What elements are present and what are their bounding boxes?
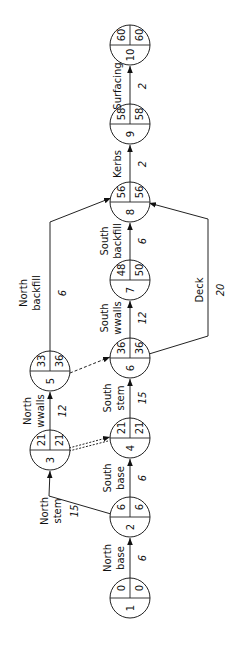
node-latest-time: 36 xyxy=(134,342,145,355)
node-latest-time: 0 xyxy=(134,585,145,591)
network-diagram: 0016622121321214333653636648507565685858… xyxy=(0,0,230,648)
node-earliest-time: 48 xyxy=(116,264,127,277)
label-south-stem-1: South xyxy=(102,383,113,412)
node-latest-time: 50 xyxy=(134,264,145,277)
node-event-number: 8 xyxy=(125,209,136,215)
duration-north-wwalls: 12 xyxy=(57,405,68,418)
node-earliest-time: 21 xyxy=(36,434,47,447)
label-deck: Deck xyxy=(194,277,205,302)
duration-north-backfill: 6 xyxy=(57,290,68,296)
node-event-number: 1 xyxy=(125,605,136,611)
node-3: 21213 xyxy=(30,430,70,470)
duration-deck: 20 xyxy=(215,284,226,297)
duration-north-stem: 15 xyxy=(69,505,80,518)
node-latest-time: 21 xyxy=(54,434,65,447)
node-7: 48507 xyxy=(110,260,150,300)
label-south-wwalls-1: South xyxy=(99,303,110,332)
node-earliest-time: 60 xyxy=(116,29,127,42)
node-1: 001 xyxy=(110,578,150,618)
label-kerbs: Kerbs xyxy=(112,150,123,178)
node-8: 56568 xyxy=(110,182,150,222)
label-north-wwalls-1: North xyxy=(22,397,33,425)
label-south-base-2: base xyxy=(115,466,126,490)
node-5: 33365 xyxy=(30,351,70,391)
label-south-backfill-1: South xyxy=(99,226,110,255)
label-surfacing: Surfacing xyxy=(112,62,123,109)
duration-south-base: 6 xyxy=(137,475,148,481)
label-north-base-2: base xyxy=(115,546,126,570)
node-earliest-time: 56 xyxy=(116,186,127,199)
node-event-number: 10 xyxy=(125,49,136,62)
duration-south-stem: 15 xyxy=(137,392,148,405)
node-earliest-time: 33 xyxy=(36,355,47,368)
label-south-stem-2: stem xyxy=(115,385,126,410)
node-10: 606010 xyxy=(110,25,150,65)
node-event-number: 4 xyxy=(125,445,136,451)
label-south-backfill-2: backfill xyxy=(112,223,123,259)
node-event-number: 7 xyxy=(125,287,136,293)
node-earliest-time: 21 xyxy=(116,422,127,435)
label-north-stem-1: North xyxy=(39,497,50,525)
label-north-wwalls-2: wwalls xyxy=(35,394,46,427)
label-north-stem-2: stem xyxy=(52,498,63,523)
label-south-wwalls-2: wwalls xyxy=(112,301,123,334)
node-event-number: 2 xyxy=(125,524,136,530)
duration-south-backfill: 6 xyxy=(137,238,148,244)
node-event-number: 9 xyxy=(125,131,136,137)
node-event-number: 5 xyxy=(45,378,56,384)
node-earliest-time: 0 xyxy=(116,585,127,591)
label-north-base-1: North xyxy=(102,544,113,572)
node-6: 36366 xyxy=(110,338,150,378)
node-latest-time: 60 xyxy=(134,29,145,42)
node-latest-time: 21 xyxy=(134,422,145,435)
node-earliest-time: 6 xyxy=(116,504,127,510)
node-2: 662 xyxy=(110,497,150,537)
label-north-backfill-1: North xyxy=(18,279,29,307)
node-event-number: 6 xyxy=(125,365,136,371)
duration-south-wwalls: 12 xyxy=(137,312,148,325)
label-south-base-1: South xyxy=(102,463,113,492)
duration-surfacing: 2 xyxy=(137,83,148,89)
node-4: 21214 xyxy=(110,418,150,458)
edge-dummy-3-4-second xyxy=(69,441,108,451)
node-latest-time: 58 xyxy=(134,108,145,121)
node-latest-time: 36 xyxy=(54,355,65,368)
nodes: 0016622121321214333653636648507565685858… xyxy=(30,25,150,618)
node-latest-time: 6 xyxy=(134,504,145,510)
node-event-number: 3 xyxy=(45,457,56,463)
duration-kerbs: 2 xyxy=(137,161,148,167)
node-latest-time: 56 xyxy=(134,186,145,199)
label-north-backfill-2: backfill xyxy=(31,275,42,311)
node-earliest-time: 36 xyxy=(116,342,127,355)
duration-north-base: 6 xyxy=(137,555,148,561)
edge-dummy-5-6 xyxy=(70,357,110,373)
